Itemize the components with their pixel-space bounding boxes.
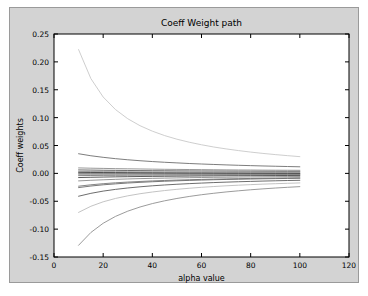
y-tick-label: -0.15 [30,253,50,262]
axes-group: 020406080100120 -0.15-0.10-0.050.000.050… [16,18,356,283]
y-tick-label: -0.05 [30,197,50,206]
y-tick-label: 0.10 [32,114,49,123]
x-tick-label: 120 [342,261,357,270]
y-tick-label: 0.00 [32,169,49,178]
x-tick-label: 0 [52,261,57,270]
chart-canvas: 020406080100120 -0.15-0.10-0.050.000.050… [10,8,360,284]
figure-panel: 020406080100120 -0.15-0.10-0.050.000.050… [9,7,359,283]
x-tick-label: 100 [293,261,308,270]
y-axis-label: Coeff weights [16,118,25,173]
y-tick-label: -0.10 [30,225,50,234]
y-tick-label: 0.25 [32,30,49,39]
plot-background [54,34,349,257]
x-tick-label: 40 [148,261,158,270]
x-tick-label: 80 [246,261,256,270]
chart-title: Coeff Weight path [161,18,242,28]
x-axis-label: alpha value [178,274,225,283]
x-tick-label: 20 [98,261,108,270]
y-tick-label: 0.15 [32,86,49,95]
y-tick-label: 0.20 [32,58,49,67]
y-tick-label: 0.05 [32,142,49,151]
x-tick-label: 60 [197,261,207,270]
